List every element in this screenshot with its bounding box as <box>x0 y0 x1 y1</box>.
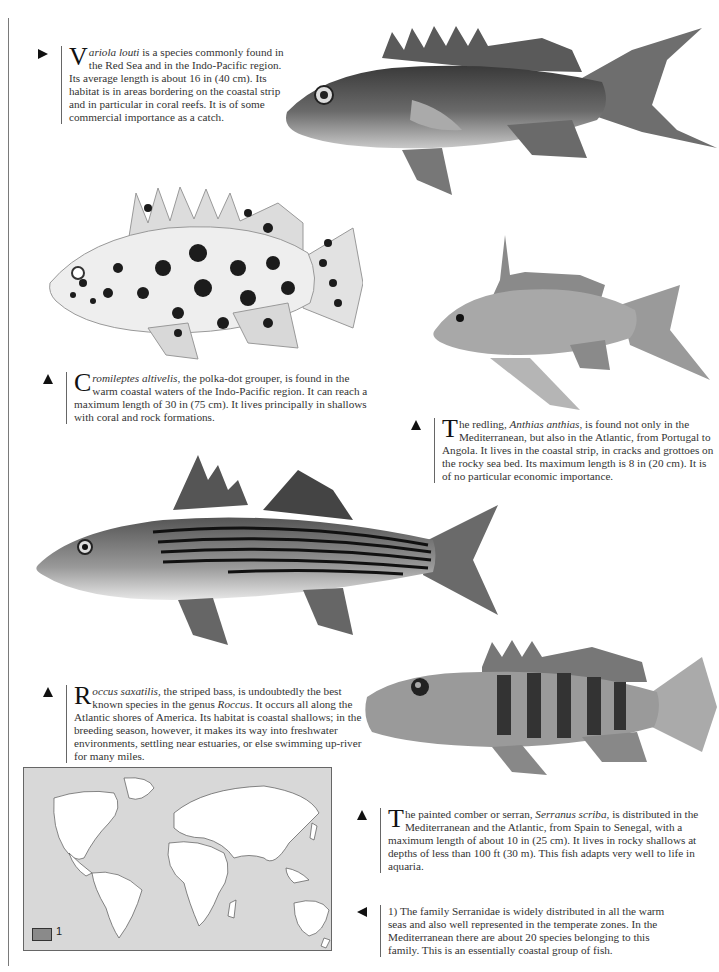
triangle-left-icon <box>356 906 368 918</box>
serranus-scriba-illustration <box>362 637 717 777</box>
caption-pre-text: he painted comber or serran, <box>405 808 535 820</box>
triangle-right-icon <box>37 48 49 60</box>
genus-name: Roccus <box>218 698 250 710</box>
species-name: occus saxatilis <box>92 685 158 697</box>
margin-rule <box>8 18 9 966</box>
caption-cromileptes-altivelis: Cromileptes altivelis, the polka-dot gro… <box>42 372 372 430</box>
legend-swatch <box>32 928 52 941</box>
dropcap: T <box>388 809 404 829</box>
triangle-up-icon <box>410 419 422 431</box>
variola-louti-illustration <box>282 20 717 200</box>
caption-roccus-saxatilis: Roccus saxatilis, the striped bass, is u… <box>42 685 362 755</box>
caption-pre-text: he redling, <box>459 418 510 430</box>
species-name: Serranus scriba <box>535 808 606 820</box>
roccus-saxatilis-illustration <box>33 450 503 650</box>
triangle-up-icon <box>42 373 54 385</box>
dropcap: C <box>74 373 91 393</box>
legend-label: 1 <box>56 925 62 937</box>
distribution-map: 1 <box>23 767 332 951</box>
caption-variola-louti: Variola louti is a species commonly foun… <box>37 46 287 126</box>
species-name: romileptes altivelis <box>92 372 177 384</box>
caption-family-note: 1) The family Serranidae is widely distr… <box>356 905 719 965</box>
dropcap: R <box>74 686 91 706</box>
species-name: ariola louti <box>89 46 140 58</box>
anthias-anthias-illustration <box>430 230 715 415</box>
caption-serranus-scriba: The painted comber or serran, Serranus s… <box>356 808 719 868</box>
world-map-landmasses <box>24 768 331 950</box>
cromileptes-altivelis-illustration <box>48 183 363 360</box>
triangle-up-icon <box>42 686 54 698</box>
species-name: Anthias anthias <box>510 418 580 430</box>
triangle-up-icon <box>356 809 368 821</box>
dropcap: T <box>442 419 458 439</box>
caption-text: 1) The family Serranidae is widely distr… <box>388 905 664 956</box>
dropcap: V <box>69 47 88 67</box>
